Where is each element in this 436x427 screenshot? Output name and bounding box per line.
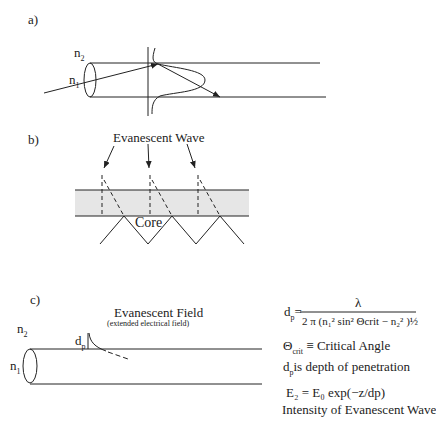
intensity-equation: E₂ = E₀ exp(−z/dp) [286, 386, 385, 399]
panel-c-n2: n2 [17, 322, 28, 335]
panel-c-fiber [23, 333, 262, 384]
panel-c-title: Evanescent Field [114, 306, 203, 319]
n1-subscript: 1 [76, 81, 80, 90]
fraction-denominator: 2 π (n₁² sin² Θcrit − n₂² )½ [302, 316, 418, 327]
dp-subscript: p [82, 342, 86, 351]
critical-angle-definition: Θcrit ≡ Critical Angle [283, 339, 390, 352]
panel-c-n1: n1 [10, 359, 21, 372]
panel-c-dp: dp [75, 334, 86, 347]
panel-c-label: c) [30, 293, 40, 306]
dp-equation-lhs: dp= [284, 305, 302, 318]
panel-b-title: Evanescent Wave [113, 131, 204, 144]
fraction-numerator: λ [355, 296, 361, 309]
panel-a-label: a) [28, 13, 38, 26]
equals-sign: = [295, 304, 302, 319]
n2-subscript: 2 [24, 330, 28, 339]
theta-symbol: Θ [283, 338, 292, 353]
panel-a-n1: n1 [69, 73, 80, 86]
n2-subscript: 2 [81, 54, 85, 63]
panel-c-subtitle: (extended electrical field) [107, 320, 189, 328]
core-label: Core [135, 216, 162, 230]
panel-a-fiber [44, 47, 326, 116]
critical-angle-text: ≡ Critical Angle [306, 338, 390, 353]
n1-subscript: 1 [17, 367, 21, 376]
panel-b-label: b) [28, 133, 39, 146]
depth-text: is depth of penetration [294, 359, 411, 374]
intensity-caption: Intensity of Evanescent Wave [282, 403, 436, 416]
depth-definition: dpis depth of penetration [283, 360, 410, 373]
panel-a-n2: n2 [74, 46, 85, 59]
crit-subscript: crit [292, 347, 303, 356]
